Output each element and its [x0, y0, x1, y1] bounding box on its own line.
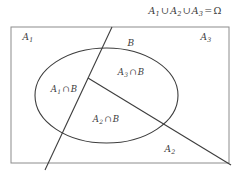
venn-diagram-canvas: [0, 0, 240, 174]
region-label-a3: A3: [201, 33, 212, 43]
region-label-b: B: [128, 39, 135, 48]
intersection-label-a3-b: A3∩B: [118, 68, 144, 78]
intersection-label-a1-b: A1∩B: [51, 85, 77, 95]
region-label-a2: A2: [165, 145, 176, 155]
intersection-label-a2-b: A2∩B: [93, 115, 119, 125]
event-b-ellipse: [35, 48, 178, 143]
partition-line-steep: [45, 27, 112, 170]
venn-diagram-figure: A1∪A2∪A3=Ω A1 A3 A2 B A1∩B A3∩B A2∩B: [0, 0, 240, 174]
region-label-a1: A1: [23, 33, 34, 43]
